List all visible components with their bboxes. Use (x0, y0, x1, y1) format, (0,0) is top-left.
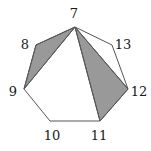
vertex-label-7: 7 (70, 7, 78, 20)
vertex-label-11: 11 (91, 129, 108, 142)
vertex-label-10: 10 (44, 129, 61, 142)
vertex-label-8: 8 (21, 38, 29, 51)
vertex-label-13: 13 (115, 38, 132, 51)
diagonal-7-9 (24, 27, 75, 89)
vertex-label-9: 9 (9, 85, 17, 98)
heptagon-svg (0, 0, 151, 151)
heptagon-figure: 78910111213 (0, 0, 151, 151)
vertex-label-12: 12 (131, 85, 148, 98)
